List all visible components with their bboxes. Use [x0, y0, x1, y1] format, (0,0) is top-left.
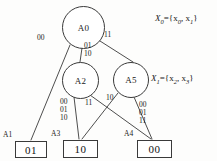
annotation-x1-eq: ={x [160, 73, 174, 83]
annotation-x0: X0={x0, x1} [155, 13, 197, 25]
node-a5[interactable]: A5 [113, 62, 149, 98]
edge-label-a2-a3: 00 01 10 [60, 98, 68, 122]
edge-a0-a1 [31, 45, 70, 140]
node-a2[interactable]: A2 [62, 62, 99, 99]
edge-label-a0-a5: 11 [104, 31, 111, 39]
terminal-value-a4: 00 [149, 143, 161, 155]
edge-a2-a3 [74, 97, 79, 139]
terminal-value-a1: 01 [25, 144, 37, 156]
terminal-name-a3: A3 [51, 129, 60, 138]
terminal-name-a1: A1 [3, 130, 12, 139]
annotation-x0-comma: , x [181, 13, 190, 23]
annotation-x0-eq: ={x [164, 13, 178, 23]
edge-label-a5-a3: 10 [106, 94, 114, 102]
edge-a0-a5 [100, 41, 133, 62]
terminal-name-a4: A4 [124, 129, 133, 138]
annotation-x0-close: } [193, 13, 197, 23]
annotation-x1-close: } [189, 73, 193, 83]
edge-label-a0-a2: 01 10 [84, 42, 92, 58]
terminal-box-a4[interactable]: 00 [137, 140, 172, 158]
edge-label-a2-a4: 11 [85, 99, 92, 107]
terminal-box-a1[interactable]: 01 [15, 141, 47, 158]
annotation-x1-comma: , x [177, 73, 186, 83]
node-a5-label: A5 [125, 75, 136, 85]
edge-a0-a2 [80, 48, 82, 62]
edge-label-a0-a1: 00 [37, 34, 45, 42]
terminal-value-a3: 10 [75, 143, 87, 155]
decision-diagram-figure: A0 A2 A5 A1 01 A3 10 A4 00 00 01 10 11 0… [0, 0, 217, 161]
edge-label-a5-a4: 00 01 11 [139, 101, 147, 125]
annotation-x1: X1={x2, x3} [151, 73, 193, 85]
node-a0-label: A0 [78, 23, 89, 33]
node-a2-label: A2 [75, 76, 86, 86]
terminal-box-a3[interactable]: 10 [63, 140, 98, 158]
